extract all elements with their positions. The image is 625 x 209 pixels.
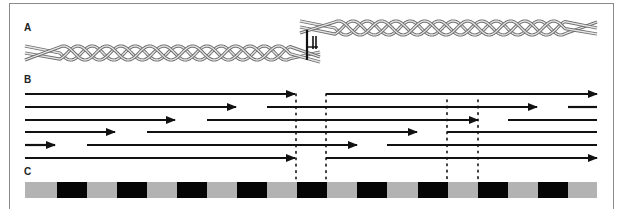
black-block bbox=[117, 182, 147, 198]
black-block bbox=[237, 182, 267, 198]
black-block bbox=[357, 182, 387, 198]
panel-c-bar bbox=[25, 182, 597, 198]
black-block bbox=[478, 182, 508, 198]
black-block bbox=[57, 182, 87, 198]
panel-b-arrows bbox=[25, 94, 597, 181]
black-block bbox=[297, 182, 327, 198]
left-helix bbox=[25, 46, 320, 62]
black-block bbox=[538, 182, 568, 198]
panel-a-helices bbox=[25, 21, 597, 62]
black-block bbox=[177, 182, 207, 198]
black-block bbox=[418, 182, 448, 198]
diagram-canvas bbox=[0, 0, 625, 209]
right-helix bbox=[300, 21, 597, 35]
figure: A B C bbox=[0, 0, 625, 209]
